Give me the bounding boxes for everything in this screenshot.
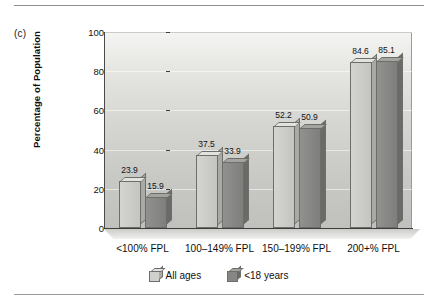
x-category-label: 150–199% FPL	[258, 243, 335, 254]
y-axis-title: Percentage of Population	[31, 10, 42, 170]
y-tick-mark	[166, 32, 170, 33]
bar: 84.6	[350, 62, 372, 228]
y-tick-label: 0	[78, 223, 104, 234]
y-tick-mark	[166, 150, 170, 151]
bar-front-face	[273, 126, 295, 228]
y-tick-mark	[166, 110, 170, 111]
legend-label: <18 years	[244, 270, 288, 281]
bar-side-face	[244, 153, 249, 224]
bar-value-label: 85.1	[370, 45, 404, 55]
legend-swatch-top	[150, 268, 166, 272]
bar-value-label: 23.9	[113, 165, 147, 175]
bar-front-face	[299, 128, 321, 228]
x-axis-line	[104, 228, 413, 229]
x-category-label: <100% FPL	[104, 243, 181, 254]
y-tick-label: 40	[78, 144, 104, 155]
bar: 33.9	[222, 162, 244, 228]
legend-swatch	[149, 271, 160, 282]
chart-legend: All ages<18 years	[0, 269, 437, 282]
bar-value-label: 50.9	[293, 112, 327, 122]
bar: 15.9	[145, 197, 167, 228]
x-category-label: 100–149% FPL	[181, 243, 258, 254]
y-axis-line	[104, 32, 105, 229]
bar: 85.1	[376, 61, 398, 228]
plot-area: 23.915.937.533.952.250.984.685.1	[104, 32, 412, 228]
bar: 50.9	[299, 128, 321, 228]
legend-label: All ages	[166, 270, 202, 281]
y-tick-mark	[166, 71, 170, 72]
y-tick-mark	[166, 228, 170, 229]
legend-item: All ages	[149, 269, 202, 282]
y-tick-label: 20	[78, 183, 104, 194]
x-category-label: 200+% FPL	[335, 243, 412, 254]
bar-front-face	[350, 62, 372, 228]
gridline	[104, 32, 412, 33]
panel-label: (c)	[14, 28, 26, 39]
y-tick-label: 60	[78, 105, 104, 116]
bar: 52.2	[273, 126, 295, 228]
bar-side-face	[321, 120, 326, 224]
y-axis-ticks: 020406080100	[66, 0, 104, 305]
bar-side-face	[398, 53, 403, 224]
bar-value-label: 33.9	[216, 146, 250, 156]
y-tick-label: 100	[78, 27, 104, 38]
bar: 23.9	[119, 181, 141, 228]
legend-swatch-top	[228, 268, 244, 272]
y-tick-mark	[166, 189, 170, 190]
bar-front-face	[222, 162, 244, 228]
bar-front-face	[196, 155, 218, 229]
bar-front-face	[145, 197, 167, 228]
legend-item: <18 years	[227, 269, 288, 282]
bar-front-face	[119, 181, 141, 228]
y-tick-label: 80	[78, 66, 104, 77]
bar-front-face	[376, 61, 398, 228]
legend-swatch	[227, 271, 238, 282]
bar: 37.5	[196, 155, 218, 229]
plot-floor-shadow	[104, 229, 420, 239]
